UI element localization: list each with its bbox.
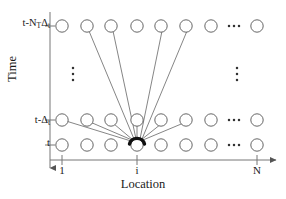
ellipsis-dot: [233, 119, 236, 122]
node: [251, 20, 263, 32]
ellipsis-dot: [228, 119, 231, 122]
y-tick-label-top-sub2: t: [48, 21, 50, 30]
node-row-bottom: [56, 139, 263, 151]
node: [205, 114, 217, 126]
node: [105, 20, 117, 32]
node: [180, 114, 192, 126]
node: [56, 20, 68, 32]
row-ellipsis-dots: [228, 25, 241, 147]
ellipsis-dot: [72, 79, 75, 82]
ellipsis-dot: [238, 25, 241, 28]
ellipsis-dot: [236, 67, 239, 70]
node: [56, 139, 68, 151]
node: [180, 20, 192, 32]
y-tick-label-middle: t-Δt: [2, 115, 50, 126]
ellipsis-dot: [233, 25, 236, 28]
x-tick-label-N: N: [249, 165, 265, 176]
ellipsis-dot: [228, 25, 231, 28]
node: [251, 114, 263, 126]
ellipsis-dot: [72, 73, 75, 76]
y-tick-label-top-main: t-N: [23, 17, 37, 28]
y-tick-label-top: t-NTΔt: [2, 18, 50, 29]
ellipsis-dot: [236, 73, 239, 76]
node: [105, 114, 117, 126]
node: [131, 114, 143, 126]
x-tick-label-1: 1: [54, 165, 70, 176]
y-tick-label-top-main2: Δ: [41, 17, 48, 28]
x-axis: [50, 155, 276, 165]
ellipsis-dot: [72, 67, 75, 70]
column-ellipsis-dots: [72, 67, 239, 82]
node-row-top: [56, 20, 263, 32]
node-row-middle: [56, 114, 263, 126]
ellipsis-dot: [233, 144, 236, 147]
node: [205, 20, 217, 32]
node: [180, 139, 192, 151]
node: [81, 114, 93, 126]
edge-mid-c3: [114, 124, 133, 140]
node: [81, 139, 93, 151]
y-axis-title: Time: [6, 56, 19, 82]
ellipsis-dot: [228, 144, 231, 147]
node: [131, 20, 143, 32]
node: [155, 139, 167, 151]
lattice-diagram: Time Location t-NTΔt t-Δt t 1 i N: [0, 0, 286, 199]
y-tick-label-middle-main2: Δ: [41, 114, 48, 125]
node: [56, 114, 68, 126]
node: [81, 20, 93, 32]
ellipsis-dot: [236, 79, 239, 82]
edge-mid-c5: [141, 124, 161, 140]
x-axis-title: Location: [0, 178, 286, 191]
x-tick-label-i: i: [129, 165, 145, 176]
edge-mid-c1: [66, 121, 131, 141]
node: [155, 20, 167, 32]
node: [205, 139, 217, 151]
ellipsis-dot: [238, 144, 241, 147]
node: [251, 139, 263, 151]
node: [155, 114, 167, 126]
y-tick-label-bottom: t: [2, 138, 50, 149]
ellipsis-dot: [238, 119, 241, 122]
node: [105, 139, 117, 151]
y-tick-label-middle-sub2: t: [48, 118, 50, 127]
